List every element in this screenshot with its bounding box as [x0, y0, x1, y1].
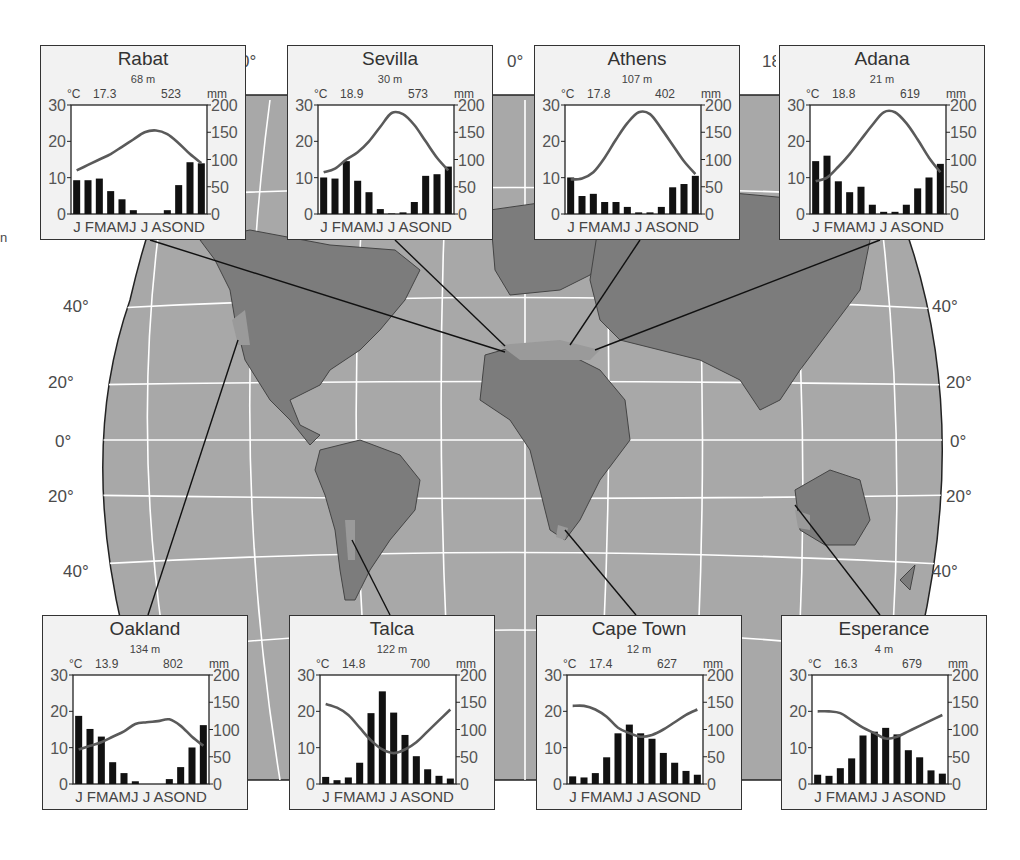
precip-bar — [660, 753, 667, 784]
month-labels: J FMAMJ J ASOND — [73, 218, 205, 235]
precip-bar — [848, 758, 855, 784]
precip-bar — [837, 768, 844, 784]
precip-bar — [857, 187, 864, 214]
precip-bar — [893, 734, 900, 784]
left-axis-tick: 0 — [553, 776, 562, 793]
latitude-label-right: 40° — [932, 562, 958, 582]
plot-area — [812, 675, 948, 784]
right-axis-tick: 200 — [458, 97, 485, 114]
left-axis-tick: 20 — [542, 133, 560, 150]
precip-bar — [592, 773, 599, 784]
latitude-label-left: 20° — [48, 487, 74, 507]
precip-bar — [578, 196, 585, 214]
right-axis-tick: 50 — [707, 749, 725, 766]
right-axis-tick: 50 — [211, 179, 229, 196]
precip-bar — [692, 176, 699, 214]
precip-bar — [86, 729, 93, 784]
climate-plot: 0102030050100150200J FMAMJ J ASOND — [288, 46, 494, 241]
precip-bar — [354, 181, 361, 214]
right-axis-tick: 100 — [458, 152, 485, 169]
precip-bar — [880, 212, 887, 214]
precip-bar — [590, 194, 597, 214]
precip-bar — [694, 775, 701, 784]
climate-chart-athens: Athens 107 m °C 17.8 402 mm 010203005010… — [534, 45, 740, 240]
precip-bar — [84, 180, 91, 214]
latitude-label-left: 40° — [63, 297, 89, 317]
month-labels: J FMAMJ J ASOND — [814, 788, 946, 805]
left-axis-tick: 30 — [789, 667, 807, 684]
precip-bar — [356, 763, 363, 784]
precip-bar — [637, 733, 644, 784]
right-axis-tick: 100 — [952, 722, 979, 739]
precip-bar — [422, 176, 429, 214]
precip-bar — [320, 177, 327, 214]
precip-bar — [671, 763, 678, 784]
left-axis-tick: 10 — [50, 740, 68, 757]
precip-bar — [390, 713, 397, 784]
left-axis-tick: 0 — [306, 776, 315, 793]
right-axis-tick: 200 — [460, 667, 487, 684]
precip-bar — [109, 762, 116, 784]
right-axis-tick: 0 — [458, 206, 467, 223]
right-axis-tick: 150 — [705, 124, 732, 141]
left-axis-tick: 30 — [50, 667, 68, 684]
precip-bar — [433, 174, 440, 214]
left-axis-tick: 0 — [551, 206, 560, 223]
right-axis-tick: 100 — [213, 722, 240, 739]
precip-bar — [580, 777, 587, 784]
precip-bar — [646, 212, 653, 214]
precip-bar — [916, 757, 923, 784]
right-axis-tick: 100 — [950, 152, 977, 169]
precip-bar — [658, 207, 665, 214]
precip-bar — [869, 205, 876, 214]
precip-bar — [669, 187, 676, 214]
precip-bar — [447, 779, 454, 784]
right-axis-tick: 200 — [707, 667, 734, 684]
climate-chart-sevilla: Sevilla 30 m °C 18.9 573 mm 010203005010… — [287, 45, 493, 240]
precip-bar — [186, 162, 193, 214]
left-axis-tick: 0 — [304, 206, 313, 223]
left-axis-tick: 20 — [544, 703, 562, 720]
left-axis-tick: 10 — [297, 740, 315, 757]
latitude-label-right: 20° — [946, 373, 972, 393]
longitude-label: 0° — [246, 52, 266, 72]
precip-bar — [73, 180, 80, 214]
month-labels: J FMAMJ J ASOND — [569, 788, 701, 805]
left-axis-tick: 10 — [544, 740, 562, 757]
left-axis-tick: 20 — [50, 703, 68, 720]
month-labels: J FMAMJ J ASOND — [812, 218, 944, 235]
right-axis-tick: 150 — [213, 694, 240, 711]
climate-chart-oakland: Oakland 134 m °C 13.9 802 mm 01020300501… — [42, 615, 248, 810]
precip-bar — [846, 192, 853, 214]
precip-bar — [905, 750, 912, 784]
precip-bar — [569, 776, 576, 784]
left-axis-tick: 0 — [796, 206, 805, 223]
right-axis-tick: 50 — [458, 179, 476, 196]
left-axis-tick: 10 — [48, 170, 66, 187]
precip-bar — [614, 733, 621, 784]
month-labels: J FMAMJ J ASOND — [322, 788, 454, 805]
left-axis-tick: 30 — [48, 97, 66, 114]
climate-plot: 0102030050100150200J FMAMJ J ASOND — [43, 616, 249, 811]
left-axis-tick: 30 — [544, 667, 562, 684]
climate-chart-talca: Talca 122 m °C 14.8 700 mm 0102030050100… — [289, 615, 495, 810]
climate-chart-cape-town: Cape Town 12 m °C 17.4 627 mm 0102030050… — [536, 615, 742, 810]
right-axis-tick: 0 — [213, 776, 222, 793]
left-axis-tick: 0 — [57, 206, 66, 223]
precip-bar — [401, 735, 408, 784]
right-axis-tick: 0 — [952, 776, 961, 793]
precip-bar — [322, 777, 329, 784]
right-axis-tick: 150 — [458, 124, 485, 141]
precip-bar — [825, 776, 832, 784]
longitude-label: 18 — [762, 52, 776, 72]
longitude-label: 0° — [507, 52, 523, 72]
right-axis-tick: 0 — [950, 206, 959, 223]
left-axis-tick: 30 — [295, 97, 313, 114]
precip-bar — [939, 774, 946, 784]
precip-bar — [343, 161, 350, 214]
climate-plot: 0102030050100150200J FMAMJ J ASOND — [290, 616, 496, 811]
climate-plot: 0102030050100150200J FMAMJ J ASOND — [535, 46, 741, 241]
right-axis-tick: 200 — [211, 97, 238, 114]
precip-bar — [130, 210, 137, 214]
precip-bar — [567, 177, 574, 214]
